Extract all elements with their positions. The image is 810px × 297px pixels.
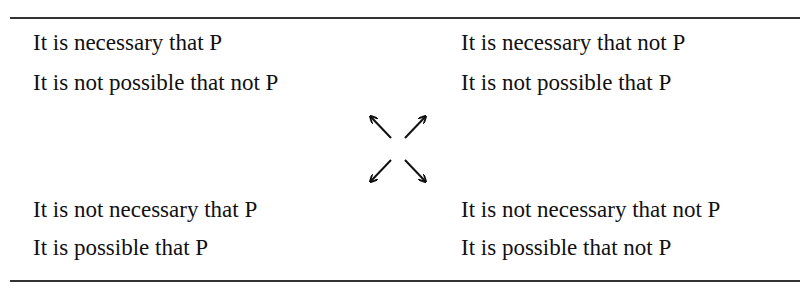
top-right-line-2: It is not possible that P <box>461 70 671 96</box>
top-left-line-1: It is necessary that P <box>33 30 222 56</box>
top-right-line-1: It is necessary that not P <box>461 30 685 56</box>
bottom-left-line-2: It is possible that P <box>33 235 208 261</box>
bottom-right-line-1: It is not necessary that not P <box>461 197 720 223</box>
top-rule <box>10 17 800 19</box>
bottom-left-line-1: It is not necessary that P <box>33 197 257 223</box>
bottom-rule <box>10 280 800 282</box>
bottom-right-line-2: It is possible that not P <box>461 235 671 261</box>
top-left-line-2: It is not possible that not P <box>33 70 278 96</box>
four-diagonal-arrows-icon <box>362 110 438 190</box>
